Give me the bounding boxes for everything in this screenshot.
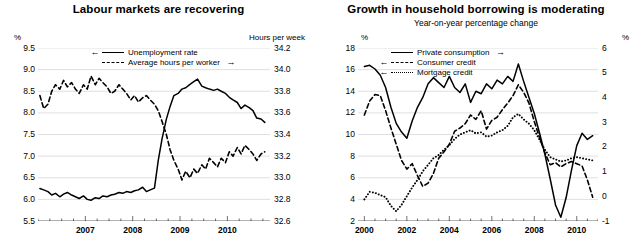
left-axis-unit-label-right: %: [361, 33, 368, 42]
y2-axis-tick-label: 33.0: [274, 172, 291, 182]
y2-axis-tick-label: -1: [602, 216, 610, 226]
y-axis-tick-label: 6.5: [5, 172, 35, 182]
y-axis-tick-label: 9.0: [5, 64, 35, 74]
y2-axis-tick-label: 4: [602, 92, 607, 102]
y2-axis-tick-label: 32.8: [274, 194, 291, 204]
y2-axis-tick-label: 34.2: [274, 43, 291, 53]
y2-axis-tick-label: 1: [602, 166, 607, 176]
y2-axis-tick-label: 33.8: [274, 86, 291, 96]
x-axis-tick-label: 2008: [514, 225, 554, 235]
x-axis-tick-label: 2007: [65, 225, 105, 235]
chart-title-right: Growth in household borrowing is moderat…: [317, 3, 635, 15]
y-axis-tick-label: 6: [325, 172, 355, 182]
x-axis-tick-label: 2002: [387, 225, 427, 235]
series-line: [40, 79, 265, 200]
x-axis-tick-label: 2009: [160, 225, 200, 235]
left-axis-unit-label: %: [14, 33, 21, 42]
y-axis-tick-label: 12: [325, 107, 355, 117]
x-axis-tick-label: 2006: [472, 225, 512, 235]
chart-subtitle-right: Year-on-year percentage change: [317, 18, 635, 28]
y2-axis-tick-label: 34.0: [274, 64, 291, 74]
x-axis-tick-label: 2010: [207, 225, 247, 235]
y2-axis-tick-label: 32.6: [274, 216, 291, 226]
plot-area-left: [38, 48, 270, 221]
plot-svg-right: [358, 48, 598, 221]
y2-axis-tick-label: 3: [602, 117, 607, 127]
y2-axis-tick-label: 2: [602, 141, 607, 151]
series-line: [364, 85, 592, 197]
y-axis-tick-label: 14: [325, 86, 355, 96]
y-axis-tick-label: 7.0: [5, 151, 35, 161]
right-axis-unit-label-right: %: [622, 33, 629, 42]
x-axis-tick-label: 2008: [113, 225, 153, 235]
series-line: [40, 76, 265, 180]
y2-axis-tick-label: 33.2: [274, 151, 291, 161]
y2-axis-tick-label: 0: [602, 191, 607, 201]
right-axis-unit-label: Hours per week: [249, 33, 305, 42]
chart-title-left: Labour markets are recovering: [0, 3, 317, 15]
chart-panel-labour: Labour markets are recovering % Hours pe…: [0, 0, 317, 245]
y-axis-tick-label: 8: [325, 151, 355, 161]
y-axis-tick-label: 16: [325, 64, 355, 74]
y-axis-tick-label: 8.0: [5, 107, 35, 117]
y-axis-tick-label: 10: [325, 129, 355, 139]
y-axis-tick-label: 7.5: [5, 129, 35, 139]
y-axis-tick-label: 9.5: [5, 43, 35, 53]
series-line: [364, 64, 592, 217]
y-axis-tick-label: 4: [325, 194, 355, 204]
figure-pair: Labour markets are recovering % Hours pe…: [0, 0, 635, 245]
y-axis-tick-label: 6.0: [5, 194, 35, 204]
plot-area-right: [358, 48, 598, 221]
x-axis-tick-label: 2010: [557, 225, 597, 235]
y2-axis-tick-label: 33.4: [274, 129, 291, 139]
x-axis-tick-label: 2000: [344, 225, 384, 235]
x-axis-tick-label: 2004: [429, 225, 469, 235]
y-axis-tick-label: 5.5: [5, 216, 35, 226]
chart-panel-borrowing: Growth in household borrowing is moderat…: [317, 0, 635, 245]
y-axis-tick-label: 8.5: [5, 86, 35, 96]
y2-axis-tick-label: 5: [602, 67, 607, 77]
y-axis-tick-label: 2: [325, 216, 355, 226]
plot-svg-left: [38, 48, 270, 221]
y2-axis-tick-label: 6: [602, 43, 607, 53]
y-axis-tick-label: 18: [325, 43, 355, 53]
y2-axis-tick-label: 33.6: [274, 107, 291, 117]
